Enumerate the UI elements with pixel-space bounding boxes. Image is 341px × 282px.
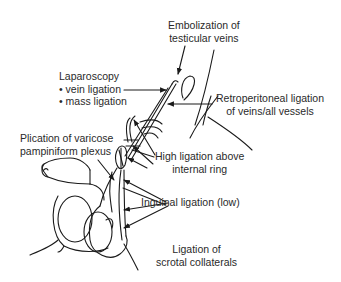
label-scrotal: Ligation of scrotal collaterals <box>156 243 237 268</box>
label-scrotal-line1: Ligation of <box>156 243 237 256</box>
arrow-embolization <box>178 46 185 74</box>
arrow-inguinal-2 <box>128 158 147 168</box>
label-scrotal-line2: scrotal collaterals <box>156 256 237 269</box>
label-inguinal-line1: Inguinal ligation (low) <box>141 196 240 209</box>
penis <box>42 158 90 184</box>
label-inguinal: Inguinal ligation (low) <box>141 196 240 209</box>
label-plication-line2: pampiniform plexus <box>20 145 113 158</box>
label-high-ligation-line2: internal ring <box>155 163 244 176</box>
label-plication: Plication of varicose pampiniform plexus <box>20 132 113 157</box>
arrow-inguinal-1 <box>133 146 153 164</box>
label-retroperitoneal-line1: Retroperitoneal ligation <box>216 92 324 105</box>
pampiniform-plexus <box>116 146 127 169</box>
label-retroperitoneal-line2: of veins/all vessels <box>216 105 324 118</box>
label-retroperitoneal: Retroperitoneal ligation of veins/all ve… <box>216 92 324 117</box>
label-embolization: Embolization of testicular veins <box>168 19 240 44</box>
retroperitoneal-vessel <box>182 76 195 100</box>
varicocele-treatment-diagram: Embolization of testicular veins Laparos… <box>0 0 341 282</box>
label-laparoscopy-item1: • vein ligation <box>59 83 127 96</box>
label-laparoscopy: Laparoscopy • vein ligation • mass ligat… <box>59 70 127 108</box>
label-high-ligation-line1: High ligation above <box>155 150 244 163</box>
label-plication-line1: Plication of varicose <box>20 132 113 145</box>
label-laparoscopy-item2: • mass ligation <box>59 95 127 108</box>
right-testis <box>84 212 113 252</box>
label-high-ligation: High ligation above internal ring <box>155 150 244 175</box>
label-embolization-line1: Embolization of <box>168 19 240 32</box>
label-embolization-line2: testicular veins <box>168 32 240 45</box>
label-laparoscopy-title: Laparoscopy <box>59 70 127 83</box>
arrow-plication <box>98 160 114 180</box>
